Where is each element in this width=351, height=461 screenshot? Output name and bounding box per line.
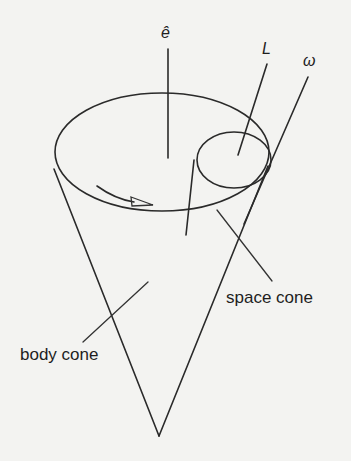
body-cone-label: body cone xyxy=(20,345,98,365)
body-cone-leader-line xyxy=(83,282,148,342)
e-hat-label: ê xyxy=(161,24,170,42)
body-cone-left-edge xyxy=(54,169,159,436)
space-cone-base-ellipse xyxy=(197,132,271,188)
angular-velocity-label: ω xyxy=(303,52,315,70)
space-cone-inner-edge xyxy=(186,160,194,235)
space-cone-label: space cone xyxy=(226,288,313,308)
cone-diagram xyxy=(0,0,351,461)
diagram-canvas: ê L ω body cone space cone xyxy=(0,0,351,461)
body-cone-base-ellipse xyxy=(55,93,269,211)
angular-velocity-line xyxy=(244,77,308,224)
angular-momentum-label: L xyxy=(262,40,271,58)
rotation-arrow-arc xyxy=(97,186,134,202)
